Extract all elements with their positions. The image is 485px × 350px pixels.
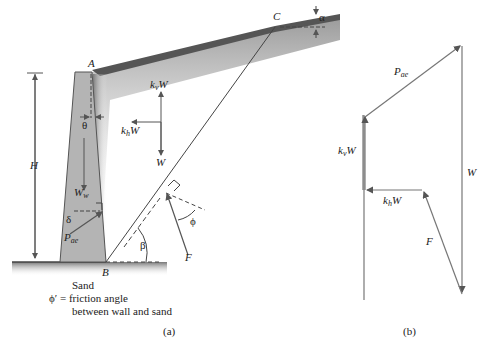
- force-polygon: [363, 46, 462, 300]
- kvw-label-b: kvW: [338, 145, 356, 158]
- ground: [12, 262, 167, 276]
- pae-label-b: Pae: [394, 66, 408, 79]
- weight-label-a: W: [156, 157, 165, 168]
- weight-label-b: W: [467, 167, 476, 178]
- caption-b: (b): [403, 326, 416, 337]
- khw-label-a: khW: [121, 125, 139, 138]
- friction-label-line1: ϕ′ = friction angle: [49, 293, 128, 304]
- point-c-label: C: [273, 11, 280, 22]
- kvw-label-a: kvW: [150, 79, 168, 92]
- force-f-label: F: [185, 252, 192, 263]
- beta-label: β: [140, 240, 146, 251]
- delta-label: δ: [66, 214, 71, 225]
- height-label: H: [30, 160, 38, 171]
- point-a-label: A: [88, 58, 95, 69]
- khw-label-b: khW: [383, 195, 401, 208]
- wall-weight-label: Ww: [74, 187, 89, 200]
- friction-label-line2: between wall and sand: [72, 306, 172, 317]
- point-b-label: B: [102, 267, 109, 278]
- pae-label-a: Pae: [64, 232, 78, 245]
- caption-a: (a): [163, 326, 175, 337]
- soil-label: Sand: [72, 280, 94, 291]
- theta-label: θ: [82, 120, 87, 131]
- force-f-label-b: F: [426, 236, 433, 247]
- phi-label: ϕ: [190, 216, 196, 227]
- alpha-label: α: [319, 12, 325, 23]
